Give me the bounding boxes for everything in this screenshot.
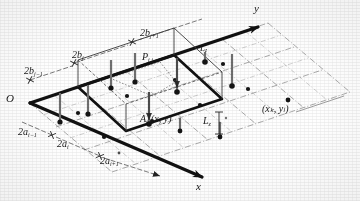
lz-measure-bar	[215, 112, 223, 134]
rod-label-lz-center: Lz	[203, 116, 211, 127]
far-point-coords-label: (xₖ, yₗ)	[262, 104, 289, 114]
x-axis-label: x	[196, 181, 201, 192]
panel-point-label: Ai,j(x, y)	[140, 114, 172, 125]
field-point-label: Pi,j	[142, 52, 153, 63]
dim-label-2a-im1: 2ai−1	[18, 127, 37, 138]
dim-label-2b-jm1: 2bj−1	[24, 66, 43, 77]
axis-origin-label: O	[6, 93, 14, 104]
diagram-svg	[0, 0, 360, 201]
figure-canvas: O y x 2bj−1 2bj 2bj+1 2ai−1 2ai 2ai+1 Pi…	[0, 0, 360, 201]
dim-label-2a-i: 2ai	[57, 139, 69, 150]
y-axis-label: y	[254, 3, 259, 14]
far-point-leader	[296, 96, 344, 112]
rod-label-lz-upper: Lz	[200, 44, 207, 54]
dim-label-2a-ip1: 2ai+1	[100, 156, 119, 167]
dim-label-2b-jp1: 2bj+1	[140, 28, 159, 39]
dim-label-2b-j: 2bj	[72, 50, 84, 61]
grid-plane	[30, 23, 350, 172]
